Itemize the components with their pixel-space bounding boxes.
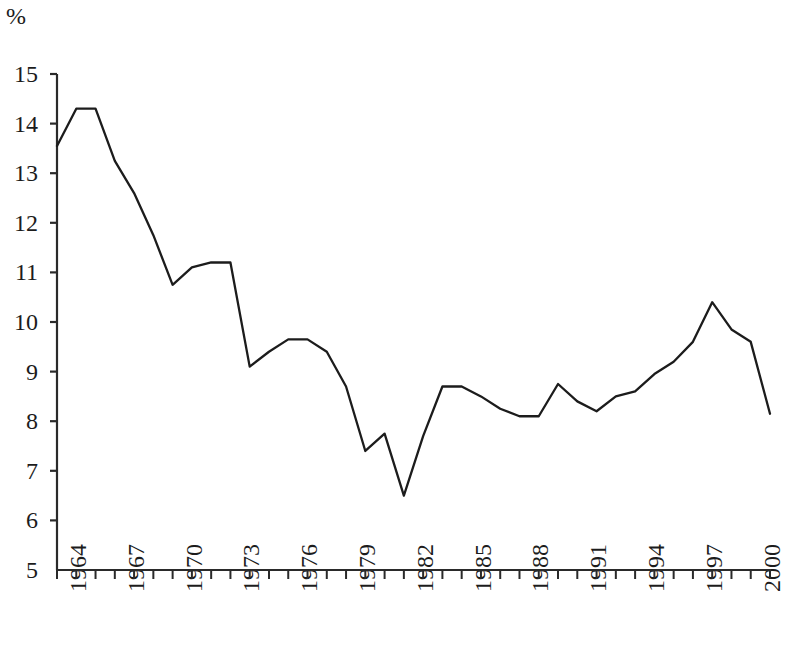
data-series-line bbox=[57, 109, 770, 496]
x-axis-ticks bbox=[57, 570, 770, 579]
axes bbox=[50, 74, 770, 579]
